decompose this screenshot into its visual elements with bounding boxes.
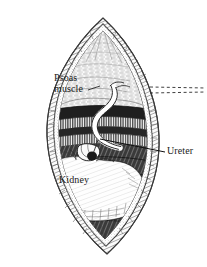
label-psoas-muscle: Psoas muscle — [54, 73, 83, 95]
label-kidney: Kidney — [59, 175, 89, 186]
psoas-leader-line-lower — [150, 92, 206, 93]
anatomical-figure: Psoas muscle Ureter Kidney — [0, 0, 207, 267]
label-ureter: Ureter — [167, 146, 193, 157]
psoas-leader-line-upper — [150, 87, 206, 88]
illustration-canvas — [0, 0, 207, 267]
